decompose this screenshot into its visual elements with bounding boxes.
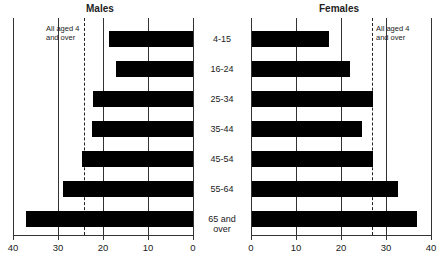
age-group-label: 25-34 (200, 94, 244, 104)
females-tick (296, 235, 297, 240)
females-bar (252, 121, 362, 137)
females-bar (252, 151, 373, 167)
males-bar (92, 121, 193, 137)
age-group-label: 35-44 (200, 124, 244, 134)
females-tick-label: 40 (416, 242, 443, 253)
females-tick-label: 20 (326, 242, 356, 253)
males-bar (109, 31, 193, 47)
age-group-label: 55-64 (200, 184, 244, 194)
ref-label-line2: and over (46, 33, 79, 42)
males-bar (82, 151, 193, 167)
males-gridline (13, 18, 14, 235)
males-reference-label: All aged 4 and over (46, 24, 79, 42)
males-gridline (58, 18, 59, 235)
females-reference-label: All aged 4 and over (376, 24, 409, 42)
ref-label-line2: and over (376, 33, 409, 42)
ref-label-line1: All aged 4 (46, 24, 79, 33)
age-group-label: 65 and over (200, 214, 244, 234)
males-tick-label: 30 (43, 242, 73, 253)
females-tick (431, 235, 432, 240)
females-reference-line (372, 18, 373, 235)
age-group-label: 16-24 (200, 64, 244, 74)
females-bar (252, 31, 329, 47)
males-tick (58, 235, 59, 240)
males-bar (63, 181, 193, 197)
males-gridline (193, 18, 194, 235)
females-bar (252, 211, 417, 227)
males-bar (26, 211, 193, 227)
females-tick-label: 0 (236, 242, 266, 253)
males-tick-label: 10 (133, 242, 163, 253)
ref-label-line1: All aged 4 (376, 24, 409, 33)
males-bar (93, 91, 193, 107)
males-reference-line (84, 18, 85, 235)
males-bar (116, 61, 193, 77)
females-tick (341, 235, 342, 240)
females-gridline (431, 18, 432, 235)
females-title: Females (319, 3, 359, 14)
females-tick (251, 235, 252, 240)
females-bar (252, 61, 350, 77)
males-tick (13, 235, 14, 240)
males-tick (148, 235, 149, 240)
age-group-label: 45-54 (200, 154, 244, 164)
males-tick-label: 40 (0, 242, 28, 253)
males-title: Males (86, 3, 114, 14)
males-tick-label: 0 (178, 242, 208, 253)
females-tick-label: 10 (281, 242, 311, 253)
females-tick (386, 235, 387, 240)
females-tick-label: 30 (371, 242, 401, 253)
age-group-label: 4-15 (200, 34, 244, 44)
females-gridline (386, 18, 387, 235)
males-tick (193, 235, 194, 240)
males-tick-label: 20 (88, 242, 118, 253)
females-bar (252, 91, 373, 107)
males-tick (103, 235, 104, 240)
females-bar (252, 181, 398, 197)
